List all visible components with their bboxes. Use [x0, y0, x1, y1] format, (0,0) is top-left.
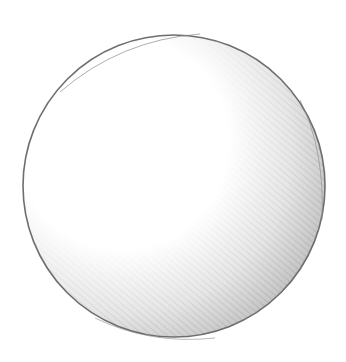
shadow-hatching — [0, 0, 346, 362]
sketch-canvas: Pencil sketch of a shaded sphere — [0, 0, 346, 362]
sphere-sketch — [0, 0, 346, 362]
